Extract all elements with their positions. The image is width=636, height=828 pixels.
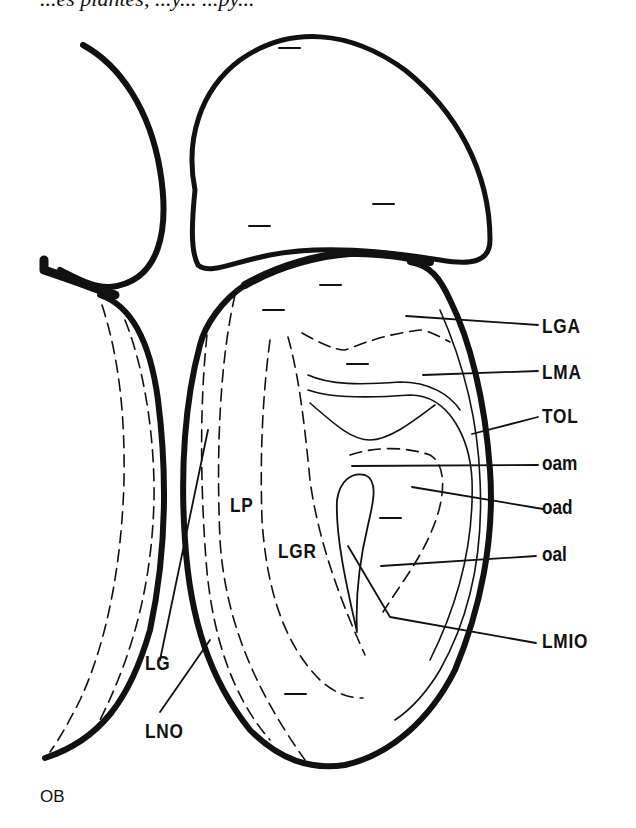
dash-lng-4 [288, 337, 365, 655]
label-LGR: LGR [278, 540, 317, 561]
label-LGA: LGA [542, 315, 581, 336]
anatomical-diagram [0, 0, 636, 828]
label-oam: oam [542, 452, 577, 473]
leader-LGA [406, 316, 538, 325]
label-LMIO: LMIO [542, 630, 588, 651]
label-oad: oad [542, 496, 573, 517]
leader-LMIO [348, 546, 536, 643]
top-lobe-outline [192, 37, 490, 269]
label-oal: oal [542, 543, 567, 564]
seam [245, 253, 430, 285]
label-LP: LP [230, 494, 254, 515]
label-LG: LG [145, 652, 171, 673]
label-TOL: TOL [542, 405, 579, 426]
label-LNO: LNO [145, 720, 184, 741]
teardrop-loop [337, 474, 374, 632]
inner-right-edge-line [395, 310, 481, 720]
dash-lng-1 [202, 335, 270, 740]
dash-wave-top [302, 330, 450, 350]
left-narrow-dash-1 [50, 305, 124, 752]
footer-label-OB: OB [40, 787, 65, 807]
left-narrow-lobe-outer [45, 295, 164, 758]
solid-curve-1 [308, 375, 460, 410]
dash-lng-2 [219, 295, 305, 760]
left-upper-lobe-outline [60, 45, 163, 287]
solid-curve-3 [310, 403, 435, 440]
leader-oad [412, 487, 543, 509]
leader-LMA [423, 371, 538, 375]
label-LMA: LMA [542, 361, 582, 382]
solid-curve-2 [308, 390, 472, 660]
dash-lng-3 [261, 340, 363, 698]
dash-inner-loop [350, 449, 443, 612]
leader-oal [381, 556, 536, 566]
leader-oam [352, 465, 538, 466]
